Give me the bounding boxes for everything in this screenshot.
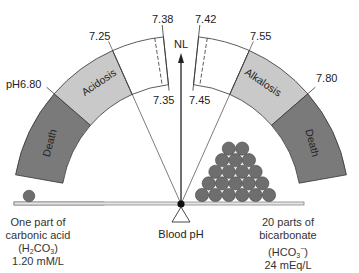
bicarbonate-ball: [195, 188, 208, 201]
bicarbonate-ball: [249, 188, 262, 201]
bicarbonate-ball: [242, 177, 255, 190]
bicarbonate-ball: [222, 165, 235, 178]
bicarbonate-ball: [242, 154, 255, 167]
bicarbonate-ball: [216, 154, 229, 167]
bicarbonate-ball: [202, 177, 215, 190]
carbonic-acid-caption: One part of carbonic acid (H2CO3) 1.20 m…: [0, 216, 76, 268]
bicarb-formula: (HCO3−): [245, 242, 331, 259]
bicarbonate-ball: [209, 165, 222, 178]
normal-label: NL: [174, 38, 188, 50]
bicarb-value: 24 mEq/L: [245, 259, 331, 272]
bicarbonate-ball: [222, 142, 235, 155]
ph-735-label: 7.35: [153, 94, 174, 106]
bicarbonate-ball: [216, 177, 229, 190]
acid-caption-line2: carbonic acid: [0, 229, 76, 242]
ph-745-label: 7.45: [189, 94, 210, 106]
ph-680-tick: [47, 87, 55, 94]
ph-742-label: 7.42: [195, 13, 216, 25]
bicarb-caption-line1: 20 parts of: [245, 216, 331, 229]
ph-738-label: 7.38: [152, 13, 173, 25]
bicarbonate-ball: [249, 165, 262, 178]
ph-780-tick: [308, 87, 316, 94]
bicarbonate-caption: 20 parts of bicarbonate (HCO3−) 24 mEq/L: [245, 216, 331, 272]
bicarbonate-ball: [256, 177, 269, 190]
acid-value: 1.20 mM/L: [0, 255, 76, 268]
bicarbonate-pyramid: [195, 142, 275, 202]
pivot-point: [177, 200, 184, 207]
arrow-up-icon: [178, 53, 184, 63]
acid-caption-line1: One part of: [0, 216, 76, 229]
bicarbonate-ball: [229, 154, 242, 167]
bicarbonate-ball: [236, 165, 249, 178]
ph-725-label: 7.25: [89, 30, 110, 42]
carbonic-acid-ball: [23, 190, 35, 202]
fulcrum-triangle-icon: [172, 207, 190, 222]
bicarbonate-ball: [209, 188, 222, 201]
bicarbonate-ball: [222, 188, 235, 201]
bicarbonate-ball: [229, 177, 242, 190]
ph-balance-diagram: Acidosis Alkalosis Death Death pH6.80 7.…: [0, 0, 359, 273]
bicarb-caption-line2: bicarbonate: [245, 229, 331, 242]
balance-beam: [14, 202, 304, 205]
ph-780-label: 7.80: [316, 72, 337, 84]
blood-ph-label: Blood pH: [158, 228, 203, 240]
ph-680-label: pH6.80: [6, 78, 41, 90]
ph-755-label: 7.55: [250, 30, 271, 42]
bicarbonate-ball: [262, 188, 275, 201]
acid-formula: (H2CO3): [0, 242, 76, 255]
bicarbonate-ball: [236, 188, 249, 201]
bicarbonate-ball: [236, 142, 249, 155]
